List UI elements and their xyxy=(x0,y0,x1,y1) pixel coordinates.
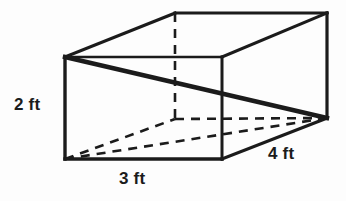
front-face-edges xyxy=(65,57,222,159)
height-dimension-label: 2 ft xyxy=(14,96,40,113)
top-left-oblique-edge xyxy=(65,13,175,57)
rectangular-prism-figure: 2 ft 3 ft 4 ft xyxy=(0,0,346,201)
prism-drawing xyxy=(0,0,346,201)
top-right-oblique-edge xyxy=(222,13,327,57)
width-dimension-label: 3 ft xyxy=(119,170,145,187)
hidden-back-bottom-edge xyxy=(175,118,327,119)
hidden-bottom-left-oblique-edge xyxy=(65,119,175,159)
depth-dimension-label: 4 ft xyxy=(268,145,294,162)
interior-diagonal-edge xyxy=(65,57,327,118)
